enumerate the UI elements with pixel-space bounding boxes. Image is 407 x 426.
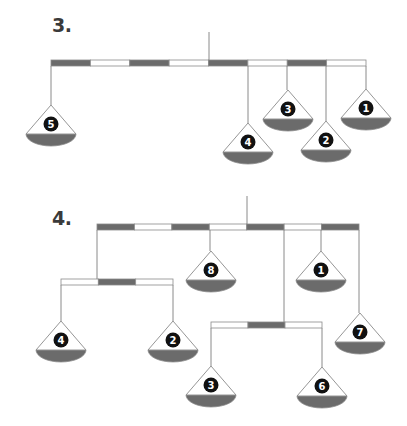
beam-segment-light xyxy=(136,279,173,285)
pan-number: 2 xyxy=(323,135,330,146)
beam-segment-light xyxy=(90,60,129,66)
beam-segment-dark xyxy=(247,224,284,230)
beam-segment-light xyxy=(211,322,248,328)
pan-number: 4 xyxy=(58,335,65,346)
pan-2: 2 xyxy=(148,321,198,362)
pan-bowl xyxy=(186,395,236,407)
pan-3: 3 xyxy=(186,366,236,407)
beam-segment-light xyxy=(169,60,208,66)
pan-1: 1 xyxy=(341,89,391,130)
pan-4: 4 xyxy=(223,123,273,164)
pan-bowl xyxy=(301,150,351,162)
beam xyxy=(51,60,366,66)
pan-number: 1 xyxy=(318,265,325,276)
beam-segment-dark xyxy=(287,60,326,66)
beam-segment-light xyxy=(248,60,287,66)
beam-segment-light xyxy=(209,224,246,230)
pan-bowl xyxy=(186,280,236,292)
beam-segment-dark xyxy=(51,60,90,66)
pan-1: 1 xyxy=(296,251,346,292)
beam-segment-light xyxy=(134,224,171,230)
pan-bowl xyxy=(297,396,347,408)
pan-number: 1 xyxy=(363,103,370,114)
beam-segment-light xyxy=(285,322,322,328)
pan-bowl xyxy=(223,152,273,164)
pan-number: 8 xyxy=(208,265,215,276)
pan-bowl xyxy=(26,134,76,146)
beam xyxy=(97,224,359,230)
pan-number: 3 xyxy=(208,380,215,391)
pan-number: 6 xyxy=(319,381,326,392)
pan-2: 2 xyxy=(301,121,351,162)
beam-segment-light xyxy=(61,279,98,285)
beam-segment-dark xyxy=(98,279,135,285)
pan-bowl xyxy=(36,350,86,362)
figure-4: 8142736 xyxy=(36,196,385,408)
pan-3: 3 xyxy=(263,90,313,131)
pan-bowl xyxy=(335,342,385,354)
mobile-balance-diagram: 543218142736 xyxy=(0,0,407,426)
pan-bowl xyxy=(148,350,198,362)
beam-segment-dark xyxy=(97,224,134,230)
pan-bowl xyxy=(263,119,313,131)
beam-segment-light xyxy=(327,60,366,66)
pan-number: 4 xyxy=(245,137,252,148)
beam-segment-dark xyxy=(209,60,248,66)
beam xyxy=(211,322,322,328)
pan-bowl xyxy=(296,280,346,292)
beam-segment-dark xyxy=(248,322,285,328)
pan-7: 7 xyxy=(335,313,385,354)
pan-4: 4 xyxy=(36,321,86,362)
figure-3: 54321 xyxy=(26,32,391,164)
beam-segment-dark xyxy=(172,224,209,230)
pan-5: 5 xyxy=(26,105,76,146)
pan-8: 8 xyxy=(186,251,236,292)
pan-6: 6 xyxy=(297,367,347,408)
pan-number: 2 xyxy=(170,335,177,346)
beam-segment-dark xyxy=(322,224,359,230)
pan-number: 3 xyxy=(285,104,292,115)
pan-number: 7 xyxy=(357,327,364,338)
pan-number: 5 xyxy=(48,119,55,130)
beam-segment-light xyxy=(284,224,321,230)
beam xyxy=(61,279,173,285)
beam-segment-dark xyxy=(130,60,169,66)
pan-bowl xyxy=(341,118,391,130)
